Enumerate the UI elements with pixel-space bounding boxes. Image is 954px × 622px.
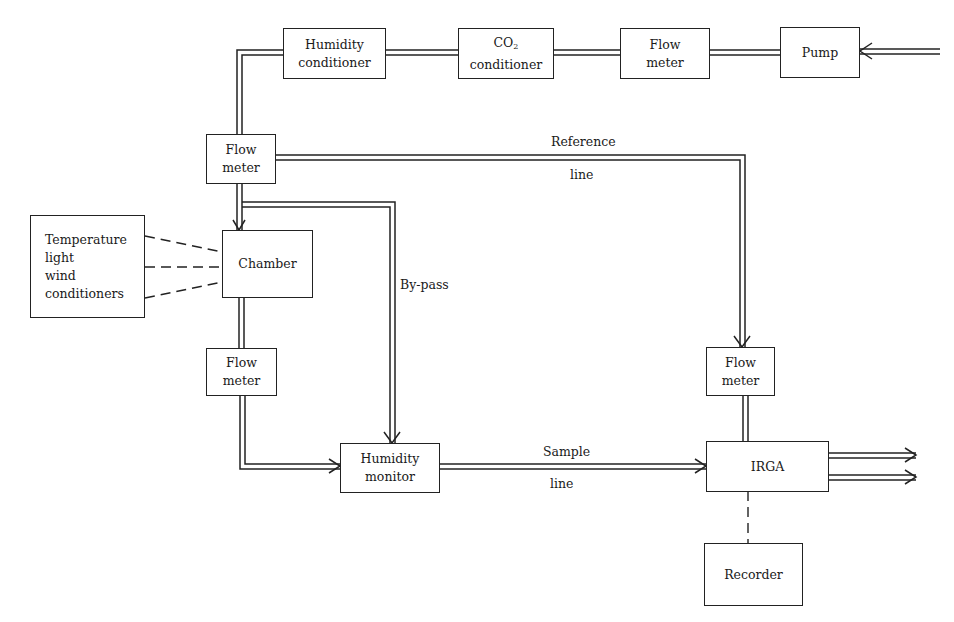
box-label: Recorder — [724, 566, 783, 584]
box-label: meter — [646, 54, 684, 72]
box-label: CO2 — [494, 34, 519, 56]
box-label: conditioner — [298, 54, 371, 72]
box-label: Flow — [226, 141, 257, 159]
chamber-box: Chamber — [222, 230, 313, 298]
flow-meter-top-box: Flow meter — [620, 28, 710, 79]
inlet-pipe — [859, 43, 940, 59]
box-label: Chamber — [238, 255, 296, 273]
co2-conditioner-box: CO2 conditioner — [458, 28, 554, 79]
box-label: meter — [223, 372, 261, 390]
box-label: IRGA — [751, 458, 784, 476]
reference-line-label-bottom: line — [570, 167, 593, 182]
box-label: monitor — [365, 468, 415, 486]
bypass-label: By-pass — [400, 277, 449, 292]
pump-box: Pump — [780, 27, 860, 78]
box-label: meter — [222, 159, 260, 177]
box-label: Pump — [802, 44, 838, 62]
box-label: Flow — [226, 354, 257, 372]
sample-line-label-bottom: line — [550, 476, 573, 491]
flow-meter-left-box: Flow meter — [206, 134, 276, 184]
box-label: conditioners — [45, 285, 124, 303]
flow-meter-lower-box: Flow meter — [206, 348, 277, 396]
box-label: Humidity — [361, 450, 420, 468]
box-label: light — [45, 249, 74, 267]
co2-subscript: 2 — [513, 42, 518, 51]
box-label: conditioner — [470, 56, 543, 74]
env-conditioners-box: Temperature light wind conditioners — [30, 215, 145, 318]
box-label: wind — [45, 267, 76, 285]
box-label: Flow — [725, 354, 756, 372]
co2-text: CO — [494, 35, 514, 50]
irga-box: IRGA — [706, 441, 829, 492]
recorder-box: Recorder — [704, 543, 803, 606]
box-label: meter — [722, 372, 760, 390]
humidity-monitor-box: Humidity monitor — [340, 443, 440, 493]
sample-line-label-top: Sample — [543, 444, 590, 459]
reference-line-label-top: Reference — [551, 134, 616, 149]
box-label: Flow — [650, 36, 681, 54]
flow-meter-right-box: Flow meter — [706, 347, 775, 396]
humidity-conditioner-box: Humidity conditioner — [283, 28, 386, 79]
box-label: Humidity — [305, 36, 364, 54]
box-label: Temperature — [45, 231, 127, 249]
